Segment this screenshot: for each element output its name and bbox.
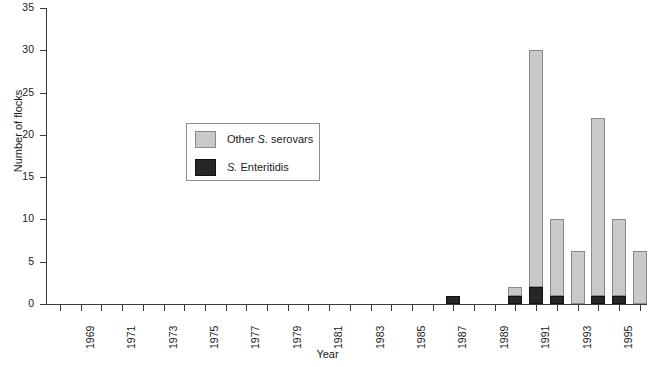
x-axis-tick-1988 xyxy=(474,305,475,311)
x-axis-tick-1991 xyxy=(536,305,537,311)
x-axis-tick-1990 xyxy=(515,305,516,311)
legend-item-s-enteritidis: S. Enteritidis xyxy=(195,157,289,177)
x-axis-tick-1989 xyxy=(495,305,496,311)
y-axis-tick-0 xyxy=(40,304,46,305)
legend-item-other-serovars: Other S. serovars xyxy=(195,129,313,149)
x-axis-tick-1993 xyxy=(578,305,579,311)
x-axis-tick-1969 xyxy=(81,305,82,311)
x-axis-tick-1986 xyxy=(433,305,434,311)
bar-1990 xyxy=(508,287,522,304)
x-axis-tick-label-1989: 1989 xyxy=(499,326,510,349)
x-axis-tick-1973 xyxy=(164,305,165,311)
bar-chart-figure: 05101520253035 Number of flocks 19691971… xyxy=(0,0,655,367)
x-axis-tick-1987 xyxy=(453,305,454,311)
bar-segment-other-serovars-1991 xyxy=(529,50,543,287)
legend-label-other-serovars: Other S. serovars xyxy=(227,133,313,145)
x-axis-tick-label-1993: 1993 xyxy=(582,326,593,349)
x-axis-tick-1974 xyxy=(184,305,185,311)
x-axis-tick-1994 xyxy=(598,305,599,311)
bar-segment-other-serovars-1994 xyxy=(591,118,605,296)
x-axis-tick-1976 xyxy=(226,305,227,311)
x-axis-tick-label-1981: 1981 xyxy=(333,326,344,349)
y-axis-tick-15 xyxy=(40,177,46,178)
bar-1991 xyxy=(529,50,543,304)
bar-1996 xyxy=(633,251,647,304)
bar-1995 xyxy=(612,219,626,304)
bar-segment-s-enteritidis-1995 xyxy=(612,296,626,304)
x-axis-tick-1970 xyxy=(101,305,102,311)
y-axis-tick-label-30: 30 xyxy=(12,44,34,55)
y-axis-line xyxy=(46,8,47,305)
bar-segment-s-enteritidis-1992 xyxy=(550,296,564,304)
x-axis-tick-label-1973: 1973 xyxy=(168,326,179,349)
y-axis-tick-30 xyxy=(40,50,46,51)
x-axis-tick-label-1991: 1991 xyxy=(540,326,551,349)
y-axis-tick-label-5: 5 xyxy=(12,256,34,267)
x-axis-tick-1996 xyxy=(640,305,641,311)
bar-segment-s-enteritidis-1991 xyxy=(529,287,543,304)
x-axis-tick-1983 xyxy=(371,305,372,311)
x-axis-tick-1972 xyxy=(143,305,144,311)
x-axis-tick-label-1969: 1969 xyxy=(85,326,96,349)
y-axis-tick-5 xyxy=(40,262,46,263)
y-axis-tick-label-0: 0 xyxy=(12,298,34,309)
x-axis-tick-1978 xyxy=(267,305,268,311)
x-axis-tick-1968 xyxy=(60,305,61,311)
bar-segment-s-enteritidis-1994 xyxy=(591,296,605,304)
x-axis-title: Year xyxy=(0,348,655,360)
y-axis-tick-label-10: 10 xyxy=(12,213,34,224)
bar-segment-s-enteritidis-1987 xyxy=(446,296,460,304)
bar-1992 xyxy=(550,219,564,304)
x-axis-tick-1980 xyxy=(308,305,309,311)
x-axis-tick-label-1987: 1987 xyxy=(457,326,468,349)
x-axis-tick-label-1985: 1985 xyxy=(416,326,427,349)
bar-segment-other-serovars-1992 xyxy=(550,219,564,295)
x-axis-tick-1982 xyxy=(350,305,351,311)
x-axis-tick-1992 xyxy=(557,305,558,311)
bar-segment-other-serovars-1996 xyxy=(633,251,647,304)
y-axis-title: Number of flocks xyxy=(12,61,24,201)
legend-swatch-other-serovars xyxy=(195,131,216,148)
bar-1993 xyxy=(571,251,585,304)
y-axis-tick-25 xyxy=(40,93,46,94)
chart-legend: Other S. serovars S. Enteritidis xyxy=(186,123,320,181)
y-axis-tick-20 xyxy=(40,135,46,136)
y-axis-tick-label-35: 35 xyxy=(12,2,34,13)
x-axis-tick-1981 xyxy=(329,305,330,311)
legend-swatch-s-enteritidis xyxy=(195,159,216,176)
x-axis-tick-1979 xyxy=(288,305,289,311)
y-axis-tick-10 xyxy=(40,219,46,220)
legend-label-s-enteritidis: S. Enteritidis xyxy=(227,161,289,173)
x-axis-tick-label-1983: 1983 xyxy=(375,326,386,349)
x-axis-tick-label-1971: 1971 xyxy=(126,326,137,349)
x-axis-tick-label-1975: 1975 xyxy=(209,326,220,349)
y-axis-tick-35 xyxy=(40,8,46,9)
bar-segment-s-enteritidis-1990 xyxy=(508,296,522,304)
bar-1994 xyxy=(591,118,605,304)
x-axis-tick-label-1979: 1979 xyxy=(292,326,303,349)
x-axis-tick-1975 xyxy=(205,305,206,311)
x-axis-tick-label-1977: 1977 xyxy=(250,326,261,349)
bar-segment-other-serovars-1995 xyxy=(612,219,626,295)
bar-segment-other-serovars-1990 xyxy=(508,287,522,295)
x-axis-tick-1984 xyxy=(391,305,392,311)
x-axis-tick-1985 xyxy=(412,305,413,311)
x-axis-tick-1977 xyxy=(246,305,247,311)
bar-1987 xyxy=(446,296,460,304)
bar-segment-other-serovars-1993 xyxy=(571,251,585,304)
x-axis-tick-1971 xyxy=(122,305,123,311)
x-axis-tick-label-1995: 1995 xyxy=(623,326,634,349)
x-axis-tick-1995 xyxy=(619,305,620,311)
